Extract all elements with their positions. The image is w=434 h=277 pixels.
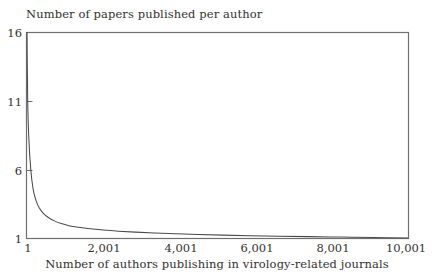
x-tick-label-2001: 2,001 — [88, 241, 121, 255]
x-tick-label-1: 1 — [24, 241, 31, 255]
series-line-papers-per-author — [27, 33, 408, 239]
y-tick-label-6: 6 — [0, 164, 22, 178]
axes-box — [27, 33, 409, 239]
chart-figure: Number of papers published per author 16… — [0, 0, 434, 277]
plot-frame — [27, 33, 409, 239]
x-axis-title: Number of authors publishing in virology… — [0, 257, 434, 271]
plot-canvas — [0, 0, 434, 277]
x-tick-label-6001: 6,001 — [241, 241, 274, 255]
x-tick-label-10001: 10,001 — [386, 241, 426, 255]
data-series-group — [27, 33, 408, 239]
y-tick-label-11: 11 — [0, 95, 22, 109]
y-axis-ticks — [27, 102, 33, 171]
x-tick-label-8001: 8,001 — [317, 241, 350, 255]
y-tick-label-16: 16 — [0, 26, 22, 40]
x-tick-label-4001: 4,001 — [165, 241, 198, 255]
y-tick-label-1: 1 — [0, 232, 22, 246]
